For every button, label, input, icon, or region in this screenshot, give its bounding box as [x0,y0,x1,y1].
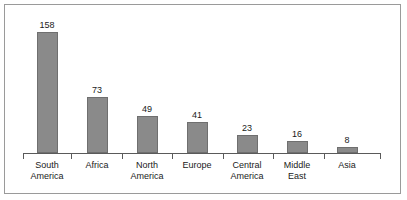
x-axis-tick [380,154,381,159]
bar-middle-east[interactable] [287,141,308,153]
bar-south-america[interactable] [37,32,58,153]
cat-label-asia: Asia [321,160,373,171]
cat-label-central-america: Central America [221,160,273,182]
cat-label-line: North [121,160,173,171]
bar-group-north-america: 49 [125,5,169,153]
bar-value-north-america: 49 [125,104,169,114]
bar-value-asia: 8 [325,135,369,145]
cat-label-south-america: South America [21,160,73,182]
cat-label-line: Central [221,160,273,171]
cat-label-line: Asia [321,160,373,171]
cat-label-line: South [21,160,73,171]
cat-label-middle-east: Middle East [271,160,323,182]
bar-value-africa: 73 [75,85,119,95]
bar-africa[interactable] [87,97,108,153]
x-axis-tick [71,154,72,159]
bar-group-asia: 8 [325,5,369,153]
bar-value-south-america: 158 [25,20,69,30]
bar-value-middle-east: 16 [275,129,319,139]
bar-group-central-america: 23 [225,5,269,153]
x-axis-tick [172,154,173,159]
x-axis-line [23,153,381,154]
bar-value-central-america: 23 [225,123,269,133]
chart-frame: 158 73 49 41 23 16 [4,4,401,194]
cat-label-line: East [271,171,323,182]
cat-label-line: Europe [171,160,223,171]
bar-group-south-america: 158 [25,5,69,153]
x-axis-tick [273,154,274,159]
plot-area: 158 73 49 41 23 16 [5,5,402,195]
cat-label-line: America [121,171,173,182]
x-axis-tick [324,154,325,159]
bar-group-europe: 41 [175,5,219,153]
bar-central-america[interactable] [237,135,258,153]
cat-label-line: America [221,171,273,182]
bar-europe[interactable] [187,122,208,153]
cat-label-europe: Europe [171,160,223,171]
cat-label-line: America [21,171,73,182]
x-axis-tick [223,154,224,159]
cat-label-line: Africa [71,160,123,171]
cat-label-africa: Africa [71,160,123,171]
x-axis-tick [122,154,123,159]
cat-label-line: Middle [271,160,323,171]
bar-group-africa: 73 [75,5,119,153]
bar-value-europe: 41 [175,110,219,120]
cat-label-north-america: North America [121,160,173,182]
category-labels: South America Africa North America Europ… [5,160,402,194]
bar-group-middle-east: 16 [275,5,319,153]
bar-north-america[interactable] [137,116,158,153]
x-axis-tick [23,154,24,159]
bars-layer: 158 73 49 41 23 16 [5,5,402,153]
